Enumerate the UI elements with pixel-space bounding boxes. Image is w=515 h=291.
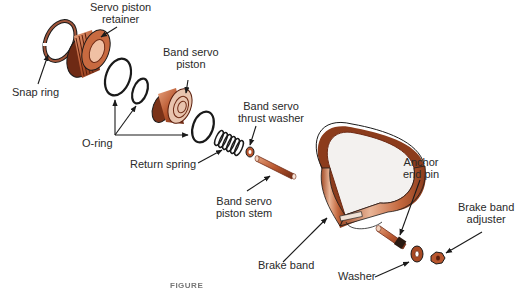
thrust-washer-part <box>246 147 254 157</box>
label-washer: Washer <box>338 270 376 282</box>
label-snap-ring: Snap ring <box>12 86 59 98</box>
label-band-servo-piston: Band servo piston <box>163 46 219 70</box>
label-brake-band-adjuster: Brake band adjuster <box>458 201 514 225</box>
label-band-servo-piston-stem: Band servo piston stem <box>216 195 272 219</box>
label-anchor-end-pin: Anchor end pin <box>403 156 439 180</box>
exploded-diagram: Servo piston retainer Snap ring Band ser… <box>0 0 515 291</box>
label-brake-band: Brake band <box>258 259 314 271</box>
o-ring-small <box>129 76 151 105</box>
piston-stem-part <box>255 156 296 180</box>
o-ring-large-2 <box>188 109 218 146</box>
label-o-ring: O-ring <box>82 137 113 149</box>
figure-caption: FIGURE <box>170 281 203 290</box>
label-band-servo-thrust-washer: Band servo thrust washer <box>238 100 304 124</box>
label-return-spring: Return spring <box>130 158 196 170</box>
label-servo-piston-retainer: Servo piston retainer <box>90 1 151 25</box>
washer-part <box>411 246 423 262</box>
brake-band-adjuster-part <box>431 252 445 264</box>
band-servo-piston-part <box>148 85 196 126</box>
o-ring-large-1 <box>100 55 136 99</box>
